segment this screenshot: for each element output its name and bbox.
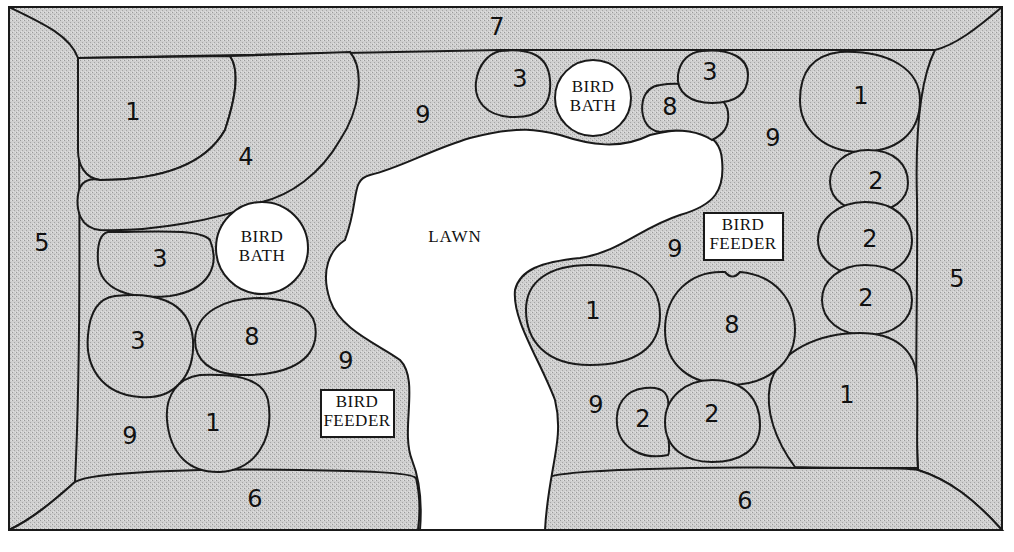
plant-label: 9 (765, 124, 780, 152)
bird-bath-top-line2: BATH (570, 96, 616, 115)
bird-feeder-right-line1: BIRD (722, 215, 765, 234)
bird-feeder-left-line1: BIRD (336, 392, 379, 411)
plant-label: 3 (512, 65, 527, 93)
bird-feeder-left-line2: FEEDER (323, 411, 390, 430)
plant-label: 8 (662, 93, 677, 121)
plant-label: 9 (122, 422, 137, 450)
plant-label: 1 (853, 82, 868, 110)
bed-6-right (539, 467, 1002, 530)
garden-plan-diagram: BIRD BATH BIRD FEEDER BIRD BATH BIRD FEE… (0, 0, 1014, 552)
plant-label: 2 (858, 284, 873, 312)
plant-label: 3 (130, 327, 145, 355)
plant-label: 9 (338, 347, 353, 375)
plant-label: 4 (238, 143, 253, 171)
plant-label: 2 (868, 167, 883, 195)
border-label-right: 5 (949, 265, 964, 293)
plant-label: 3 (152, 245, 167, 273)
border-label-left: 5 (34, 229, 49, 257)
bird-bath-left-line1: BIRD (241, 227, 284, 246)
border-label-top: 7 (489, 13, 504, 41)
bird-feeder-right-line2: FEEDER (709, 234, 776, 253)
plant-label: 2 (862, 225, 877, 253)
plant-label: 2 (635, 405, 650, 433)
border-label-bottom-right: 6 (737, 487, 752, 515)
plant-label: 9 (588, 391, 603, 419)
plant-label: 1 (205, 409, 220, 437)
plant-label: 2 (704, 400, 719, 428)
plant-label: 8 (244, 323, 259, 351)
lawn-label: LAWN (428, 227, 482, 246)
plant-label: 8 (724, 311, 739, 339)
bird-bath-left-line2: BATH (239, 246, 285, 265)
plant-label: 9 (667, 235, 682, 263)
plant-label: 3 (702, 58, 717, 86)
plant-label: 1 (585, 297, 600, 325)
plant-label: 1 (125, 98, 140, 126)
bird-bath-top-line1: BIRD (572, 77, 615, 96)
border-label-bottom-left: 6 (247, 485, 262, 513)
plant-label: 9 (415, 101, 430, 129)
plant-label: 1 (839, 381, 854, 409)
